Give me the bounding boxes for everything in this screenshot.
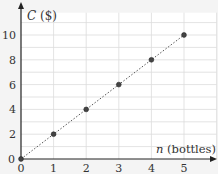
data-point xyxy=(182,33,187,38)
y-axis-label: C ($) xyxy=(27,9,57,23)
x-tick-label: 3 xyxy=(115,162,122,174)
data-point xyxy=(149,57,154,62)
x-axis-label: n (bottles) xyxy=(156,142,216,156)
y-tick-label: 0 xyxy=(8,153,15,166)
y-tick-label: 8 xyxy=(9,54,16,67)
cost-chart: 0123450246810C ($)n (bottles) xyxy=(0,0,218,174)
data-point xyxy=(116,82,121,87)
data-point xyxy=(19,157,24,162)
x-tick-label: 0 xyxy=(18,162,25,174)
y-axis-arrow-icon xyxy=(18,2,24,9)
x-tick-label: 1 xyxy=(50,162,57,174)
x-tick-label: 4 xyxy=(148,162,155,174)
x-tick-label: 2 xyxy=(83,162,90,174)
y-tick-label: 10 xyxy=(2,29,16,42)
y-tick-label: 4 xyxy=(9,103,16,116)
data-point xyxy=(51,132,56,137)
y-tick-label: 2 xyxy=(9,128,16,141)
plot-area: 0123450246810C ($)n (bottles) xyxy=(0,0,218,174)
y-tick-label: 6 xyxy=(9,79,16,92)
x-tick-label: 5 xyxy=(181,162,188,174)
data-point xyxy=(84,107,89,112)
